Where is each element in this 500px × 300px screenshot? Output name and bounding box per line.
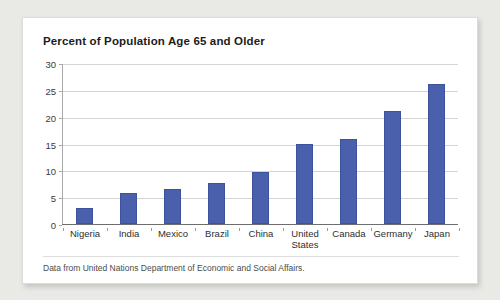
y-tick-label: 10 xyxy=(45,166,56,177)
bar[interactable] xyxy=(76,208,93,224)
x-axis-labels: NigeriaIndiaMexicoBrazilChinaUnited Stat… xyxy=(63,228,459,250)
x-tick-label: Germany xyxy=(371,228,415,250)
caption-divider xyxy=(43,256,459,257)
y-tick-label: 20 xyxy=(45,112,56,123)
x-tick-mark xyxy=(415,228,416,231)
x-tick-label: Brazil xyxy=(195,228,239,250)
bar-slot xyxy=(326,64,370,224)
y-tick-label: 30 xyxy=(45,59,56,70)
x-tick-mark xyxy=(371,228,372,231)
x-tick-mark xyxy=(283,228,284,231)
bar[interactable] xyxy=(428,84,445,224)
plot-area: 051015202530 xyxy=(62,64,458,225)
x-tick-label: Nigeria xyxy=(63,228,107,250)
bar-slot xyxy=(151,64,195,224)
bar[interactable] xyxy=(252,172,269,224)
bar[interactable] xyxy=(208,183,225,224)
bar[interactable] xyxy=(296,144,313,224)
bar-slot xyxy=(370,64,414,224)
x-tick-mark xyxy=(195,228,196,231)
bar[interactable] xyxy=(164,189,181,224)
x-tick-label: United States xyxy=(283,228,327,250)
x-tick-mark xyxy=(107,228,108,231)
x-tick-label: Mexico xyxy=(151,228,195,250)
x-tick-mark xyxy=(327,228,328,231)
y-tick-label: 15 xyxy=(45,139,56,150)
bar-slot xyxy=(107,64,151,224)
bar[interactable] xyxy=(340,139,357,224)
bar-slot xyxy=(239,64,283,224)
x-tick-mark xyxy=(459,228,460,231)
x-tick-mark xyxy=(63,228,64,231)
page-title: Percent of Population Age 65 and Older xyxy=(43,35,265,47)
bar-slot xyxy=(195,64,239,224)
y-tick-label: 5 xyxy=(51,193,56,204)
x-axis-line xyxy=(62,224,458,226)
x-tick-mark xyxy=(239,228,240,231)
y-tick-mark xyxy=(59,225,62,226)
bar-slot xyxy=(282,64,326,224)
figure-card: Percent of Population Age 65 and Older 0… xyxy=(22,17,478,284)
bar-slot xyxy=(414,64,458,224)
y-tick-label: 0 xyxy=(51,220,56,231)
bars-layer xyxy=(63,64,458,224)
x-tick-label: Japan xyxy=(415,228,459,250)
chart-caption: Data from United Nations Department of E… xyxy=(43,263,305,273)
bar[interactable] xyxy=(120,193,137,224)
bar[interactable] xyxy=(384,111,401,224)
x-tick-label: Canada xyxy=(327,228,371,250)
x-tick-mark xyxy=(151,228,152,231)
x-tick-label: India xyxy=(107,228,151,250)
bar-slot xyxy=(63,64,107,224)
y-tick-label: 25 xyxy=(45,85,56,96)
x-tick-label: China xyxy=(239,228,283,250)
